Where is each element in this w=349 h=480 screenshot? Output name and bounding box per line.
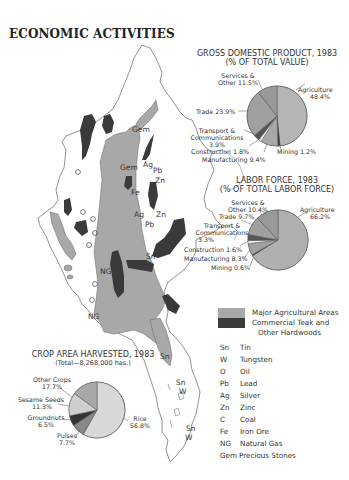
labor-label-manufacturing: Manufacturing 8.3% [184, 255, 248, 262]
legend-code: Zn [220, 403, 240, 412]
labor-label-construction: Construction 1.6% [184, 246, 242, 253]
map-label-pb: Pb [153, 166, 162, 175]
crop-sesame-value: 11.3% [16, 403, 66, 410]
legend-item-silver: AgSilver [220, 391, 260, 400]
legend-item-oil: OOil [220, 367, 250, 376]
labor-chart-title: LABOR FORCE, 1983 (% OF TOTAL LABOR FORC… [212, 176, 342, 194]
map-label-gem: Gem [120, 163, 138, 172]
legend-swatch-agri [218, 308, 245, 318]
legend-item-precious-stones: GemPrecious Stones [220, 451, 296, 460]
legend-label: Zinc [240, 403, 255, 412]
gdp-label-trade: Trade 23.9% [196, 108, 235, 115]
legend-label: Tin [240, 343, 251, 352]
map-label-ag: Ag [143, 160, 153, 169]
legend-label: Lead [240, 379, 257, 388]
map-label-zn: Zn [155, 176, 165, 185]
legend-label: Silver [240, 391, 260, 400]
crop-other-value: 17.7% [30, 383, 74, 390]
gdp-label-transport: Transport & Communications 3.9% [190, 127, 244, 148]
map-label-sn: Sn [176, 378, 186, 387]
gdp-chart-title: GROSS DOMESTIC PRODUCT, 1983 (% OF TOTAL… [192, 49, 342, 67]
gdp-agriculture-label: Agriculture [298, 86, 333, 93]
legend-item-lead: PbLead [220, 379, 257, 388]
crop-other-label: Other Crops [30, 376, 74, 383]
labor-label-agriculture: Agriculture 66.2% [300, 206, 335, 220]
map-label-gem: Gem [132, 125, 150, 134]
crop-pulses-label: Pulses [52, 432, 82, 439]
crop-groundnuts-label: Groundnuts [26, 414, 66, 421]
labor-services-label: Services & [228, 199, 268, 206]
gdp-label-manufacturing: Manufacturing 9.4% [202, 156, 266, 163]
labor-title-line2: (% OF TOTAL LABOR FORCE) [212, 185, 342, 194]
legend-label: Oil [240, 367, 250, 376]
legend-item-natural-gas: NGNatural Gas [220, 439, 283, 448]
map-label-zn: Zn [156, 210, 166, 219]
labor-transport-line1: Transport & [194, 222, 250, 229]
labor-label-transport: Transport & Communications 3.3% [194, 222, 250, 243]
map-label-w: W [179, 387, 186, 396]
labor-title-line1: LABOR FORCE, 1983 [212, 176, 342, 185]
gdp-services-value: Other 11.5% [218, 79, 258, 86]
map-label-sn: Sn [186, 424, 196, 433]
map-label-ag: Ag [134, 210, 144, 219]
labor-label-mining: Mining 0.6% [211, 264, 250, 271]
gdp-pie-chart [238, 80, 307, 152]
labor-transport-line2: Communications [194, 229, 250, 236]
legend-item-coal: CCoal [220, 415, 256, 424]
legend-code: C [220, 415, 240, 424]
agricultural-island [67, 275, 73, 279]
map-label-sn: Sn [160, 352, 170, 361]
legend-code: Gem [220, 451, 239, 460]
gdp-label-agriculture: Agriculture 48.4% [298, 86, 333, 100]
legend-code: W [220, 355, 240, 364]
legend-code: O [220, 367, 240, 376]
labor-services-value: Other 10.4% [228, 206, 268, 213]
gdp-label-construction: Construction 1.8% [191, 148, 249, 155]
crop-label-groundnuts: Groundnuts 6.5% [26, 414, 66, 428]
legend-label: Precious Stones [239, 451, 296, 460]
page-title: ECONOMIC ACTIVITIES [9, 27, 175, 41]
map-label-fe: Fe [131, 188, 140, 197]
gdp-title-line2: (% OF TOTAL VALUE) [192, 58, 342, 67]
legend-code: Fe [220, 427, 240, 436]
legend-code: Sn [220, 343, 240, 352]
labor-agriculture-value: 66.2% [300, 213, 335, 220]
crop-title-line2: (Total—8,268,000 has.) [18, 359, 168, 368]
labor-transport-line3: 3.3% [194, 236, 250, 243]
crop-sesame-label: Sesame Seeds [16, 396, 66, 403]
crop-label-pulses: Pulses 7.7% [52, 432, 82, 446]
crop-label-other: Other Crops 17.7% [30, 376, 74, 390]
crop-pulses-value: 7.7% [52, 439, 82, 446]
crop-groundnuts-value: 6.5% [26, 421, 66, 428]
legend-item-zinc: ZnZinc [220, 403, 255, 412]
crop-label-rice: Rice 56.8% [126, 415, 154, 429]
gdp-services-label: Services & [218, 72, 258, 79]
crop-pie-chart [58, 382, 128, 438]
map-label-ng: NG [100, 267, 111, 276]
map-label-ng: NG [88, 312, 99, 321]
gdp-label-mining: Mining 1.2% [277, 148, 316, 155]
legend-label: Coal [240, 415, 256, 424]
legend-label: Tungsten [240, 355, 273, 364]
gdp-transport-line2: Communications [190, 134, 244, 141]
map-label-w: W [185, 433, 192, 442]
legend-agri-label: Major Agricultural Areas [252, 308, 338, 318]
legend-item-tungsten: WTungsten [220, 355, 273, 364]
labor-label-trade: Trade 9.7% [219, 213, 254, 220]
legend-item-tin: SnTin [220, 343, 251, 352]
crop-rice-value: 56.8% [126, 422, 154, 429]
crop-label-sesame: Sesame Seeds 11.3% [16, 396, 66, 410]
crop-chart-title: CROP AREA HARVESTED, 1983 (Total—8,268,0… [18, 350, 168, 368]
crop-title-line1: CROP AREA HARVESTED, 1983 [18, 350, 168, 359]
gdp-title-line1: GROSS DOMESTIC PRODUCT, 1983 [192, 49, 342, 58]
legend-item-iron-ore: FeIron Ore [220, 427, 269, 436]
map-label-sn: Sn [146, 252, 156, 261]
legend-swatch-teak [218, 318, 245, 328]
gdp-agriculture-value: 48.4% [298, 93, 333, 100]
agricultural-island [64, 265, 72, 271]
gdp-transport-line1: Transport & [190, 127, 244, 134]
labor-label-services: Services & Other 10.4% [228, 199, 268, 213]
map-label-pb: Pb [145, 220, 154, 229]
crop-rice-label: Rice [126, 415, 154, 422]
legend-code: NG [220, 439, 240, 448]
